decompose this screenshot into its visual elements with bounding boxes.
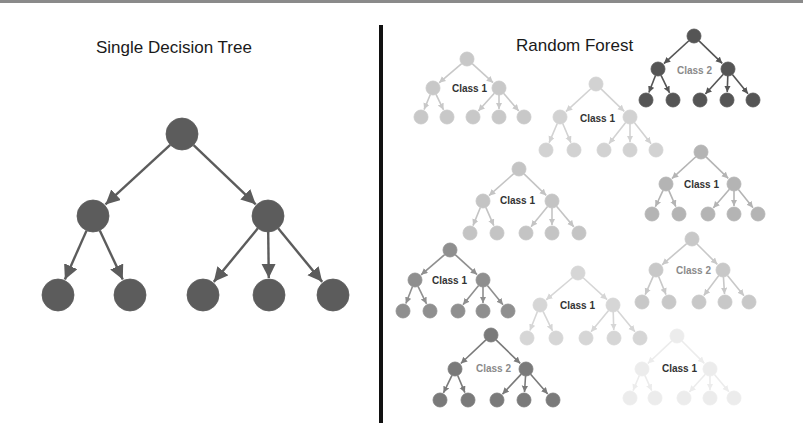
tree-edge-arrow — [502, 374, 521, 394]
leaf-node — [114, 279, 146, 311]
leaf-node — [742, 295, 756, 309]
class-label: Class 1 — [662, 363, 697, 374]
tree-edge-arrow — [268, 232, 269, 278]
tree-edge-arrow — [672, 157, 696, 179]
tree-edge-arrow — [655, 190, 663, 206]
tree-edge-arrow — [706, 157, 728, 179]
leaf-node — [492, 110, 506, 124]
leaf-node — [579, 331, 593, 345]
internal-node — [519, 362, 533, 376]
forest-tree-8: Class 1 — [520, 266, 647, 345]
root-node — [670, 329, 684, 343]
tree-edge-arrow — [549, 123, 557, 142]
leaf-node — [607, 331, 621, 345]
tree-edge-arrow — [705, 74, 723, 94]
leaf-node — [567, 143, 581, 157]
tree-edge-arrow — [461, 340, 486, 364]
leaf-node — [517, 110, 531, 124]
tree-edge-arrow — [531, 206, 548, 226]
internal-node — [492, 81, 506, 95]
leaf-node — [520, 331, 534, 345]
tree-edge-arrow — [563, 123, 571, 142]
leaf-node — [639, 93, 653, 107]
tree-edge-arrow — [473, 207, 480, 225]
leaf-node — [476, 304, 490, 318]
forest-tree-7: Class 2 — [635, 232, 756, 309]
tree-edge-arrow — [487, 285, 503, 304]
root-node — [589, 77, 603, 91]
tree-edge-arrow — [439, 64, 462, 83]
leaf-node — [490, 226, 504, 240]
class-label: Class 1 — [684, 179, 719, 190]
tree-edge-arrow — [546, 278, 573, 300]
tree-edge-arrow — [738, 189, 753, 207]
root-node — [166, 118, 198, 150]
internal-node — [649, 263, 663, 277]
leaf-node — [597, 143, 611, 157]
internal-node — [727, 177, 741, 191]
tree-edge-arrow — [194, 145, 256, 204]
leaf-node — [440, 110, 454, 124]
root-node — [571, 266, 585, 280]
class-label: Class 1 — [432, 275, 467, 286]
internal-node — [252, 200, 284, 232]
tree-edge-arrow — [463, 285, 479, 304]
root-node — [460, 52, 474, 66]
leaf-node — [461, 393, 475, 407]
tree-edge-arrow — [609, 122, 626, 143]
leaf-node — [701, 207, 715, 221]
tree-edge-arrow — [713, 189, 729, 208]
tree-edge-arrow — [530, 312, 538, 331]
tree-edge-arrow — [424, 94, 430, 109]
forest-tree-9: Class 2 — [433, 328, 560, 407]
tree-edge-arrow — [689, 374, 705, 392]
tree-edge-arrow — [645, 375, 652, 390]
tree-edge-arrow — [682, 341, 704, 363]
tree-edge-arrow — [617, 310, 635, 331]
leaf-node — [623, 143, 637, 157]
forest-tree-3: Class 2 — [639, 29, 760, 107]
class-label: Class 2 — [677, 65, 712, 76]
tree-edge-arrow — [727, 275, 744, 295]
tree-edge-arrow — [645, 276, 653, 294]
tree-edge-arrow — [455, 255, 477, 275]
tree-edge-arrow — [648, 341, 672, 364]
tree-edge-arrow — [106, 145, 171, 205]
tree-edge-arrow — [443, 375, 451, 392]
leaf-node — [703, 391, 717, 405]
leaf-node — [423, 304, 437, 318]
leaf-node — [645, 207, 659, 221]
leaf-node — [572, 226, 586, 240]
class-label: Class 2 — [676, 265, 711, 276]
tree-edge-arrow — [543, 311, 552, 331]
internal-node — [476, 273, 490, 287]
root-node — [484, 328, 498, 342]
leaf-node — [546, 393, 560, 407]
tree-edge-arrow — [472, 64, 493, 83]
leaf-node — [727, 391, 741, 405]
leaf-node — [253, 279, 285, 311]
leaf-node — [746, 93, 760, 107]
tree-edge-arrow — [669, 190, 676, 206]
tree-edge-arrow — [699, 41, 722, 64]
leaf-node — [648, 391, 662, 405]
tree-edge-arrow — [664, 41, 689, 64]
tree-edge-arrow — [525, 376, 526, 392]
internal-node — [721, 62, 735, 76]
leaf-node — [649, 143, 663, 157]
tree-edge-arrow — [524, 174, 546, 196]
class-label: Class 1 — [452, 83, 487, 94]
tree-edge-arrow — [714, 374, 728, 391]
root-node — [443, 243, 457, 257]
leaf-node — [677, 391, 691, 405]
leaf-node — [633, 331, 647, 345]
internal-node — [448, 362, 462, 376]
leaf-node — [662, 295, 676, 309]
tree-edge-arrow — [662, 244, 687, 265]
tree-edge-arrow — [418, 286, 426, 303]
tree-edge-arrow — [406, 287, 413, 304]
leaf-node — [545, 226, 559, 240]
tree-edge-arrow — [436, 94, 443, 109]
leaf-node — [414, 110, 428, 124]
tree-edge-arrow — [278, 228, 322, 282]
